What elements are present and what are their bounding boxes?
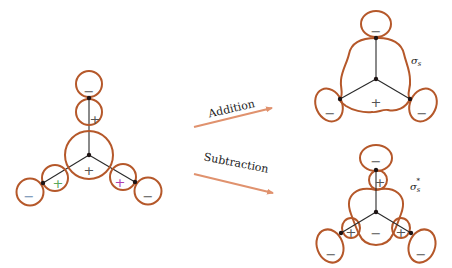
- subtraction-label: Subtraction: [203, 151, 270, 176]
- right-nucleus: [133, 180, 137, 184]
- antibonding-right-nucleus: [409, 231, 413, 235]
- sign-left-inner: +: [53, 176, 64, 191]
- bonding-sign-right: −: [417, 106, 428, 121]
- orbital-combination-diagram: − + + + − + − Addition Subtraction − + −…: [0, 0, 452, 268]
- subtraction-arrow: [194, 174, 273, 193]
- sign-top-inner: +: [90, 112, 101, 127]
- antibonding-sign-right-inner: +: [396, 225, 407, 240]
- antibonding-left-nucleus: [339, 231, 343, 235]
- antibonding-sign-top-outer: −: [371, 154, 382, 169]
- antibonding-sign-left-outer: −: [326, 247, 337, 262]
- sign-top-outer: −: [84, 84, 95, 99]
- antibonding-sign-center: −: [371, 226, 382, 241]
- center-nucleus: [87, 153, 91, 157]
- bonding-left-nucleus: [338, 97, 342, 101]
- bonding-sign-center: +: [371, 95, 382, 110]
- subtraction-arrow-group: Subtraction: [194, 151, 273, 193]
- bonding-right-nucleus: [408, 97, 412, 101]
- sign-center: +: [84, 163, 95, 178]
- antibonding-sign-top-inner: +: [375, 175, 386, 190]
- antibonding-sign-right-outer: −: [416, 247, 427, 262]
- sign-right-inner: +: [115, 175, 126, 190]
- bonding-label: σs: [411, 55, 422, 68]
- bonding-center-nucleus: [374, 77, 378, 81]
- antibonding-sign-left-inner: +: [346, 225, 357, 240]
- bonding-sign-left: −: [325, 106, 336, 121]
- bonding-sign-top: −: [371, 24, 382, 39]
- antibonding-center-nucleus: [374, 210, 378, 214]
- sign-left-outer: −: [24, 189, 35, 204]
- sign-right-outer: −: [143, 189, 154, 204]
- antibonding-orbital-group: − + − + + − − σs*: [312, 145, 440, 266]
- left-nucleus: [41, 181, 45, 185]
- antibonding-label: σs*: [410, 177, 421, 194]
- atomic-orbitals-group: − + + + − + −: [17, 71, 162, 206]
- addition-arrow-group: Addition: [194, 97, 272, 127]
- bonding-orbital-group: − + − − σs: [310, 11, 442, 126]
